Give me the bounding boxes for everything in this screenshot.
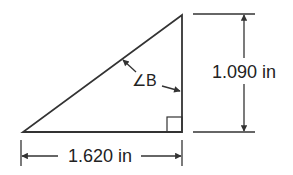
angle-label: ∠B (132, 72, 157, 89)
right-triangle (23, 15, 182, 132)
vertical-dimension-label: 1.090 in (212, 62, 276, 82)
angle-arrow-hypotenuse (123, 60, 136, 72)
horizontal-dimension-label: 1.620 in (68, 146, 132, 166)
right-angle-marker (167, 117, 182, 132)
triangle-diagram: ∠B 1.090 in 1.620 in (0, 0, 293, 175)
angle-arrow-vertical (162, 86, 180, 91)
